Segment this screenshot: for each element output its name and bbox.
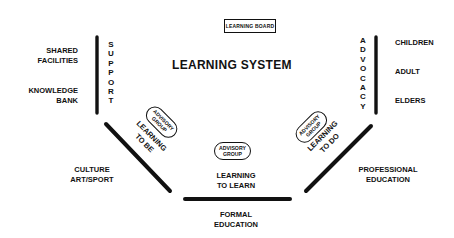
elders-label: ELDERS [395, 96, 425, 106]
children-label: CHILDREN [395, 38, 434, 48]
learning-to-learn-line1: LEARNING [211, 171, 261, 181]
shared-facilities-line2: FACILITIES [20, 56, 78, 66]
education-line: EDUCATION [355, 175, 421, 185]
professional-education-label: PROFESSIONAL EDUCATION [355, 165, 421, 184]
learning-system-diagram: LEARNING BOARD LEARNING SYSTEM SHARED FA… [0, 0, 454, 238]
education-line: EDUCATION [208, 220, 264, 230]
formal-education-label: FORMAL EDUCATION [208, 210, 264, 229]
adult-label: ADULT [395, 67, 420, 77]
knowledge-bank-label: KNOWLEDGE BANK [12, 86, 78, 105]
artsport-line: ART/SPORT [66, 175, 118, 185]
learning-to-learn-line2: TO LEARN [211, 181, 261, 191]
diagram-lines [0, 0, 454, 238]
knowledge-bank-line1: KNOWLEDGE [12, 86, 78, 96]
learning-to-learn-label: LEARNING TO LEARN [211, 171, 261, 190]
knowledge-bank-line2: BANK [12, 96, 78, 106]
culture-line: CULTURE [66, 165, 118, 175]
advisory-line2: GROUP [219, 151, 246, 157]
professional-line: PROFESSIONAL [355, 165, 421, 175]
learning-board-box: LEARNING BOARD [224, 19, 276, 33]
diagram-title: LEARNING SYSTEM [172, 58, 292, 72]
culture-artsport-label: CULTURE ART/SPORT [66, 165, 118, 184]
formal-line: FORMAL [208, 210, 264, 220]
advocacy-label: ADVOCACY [358, 36, 368, 111]
shared-facilities-line1: SHARED [20, 46, 78, 56]
shared-facilities-label: SHARED FACILITIES [20, 46, 78, 65]
support-label: SUPPORT [106, 40, 116, 106]
advisory-group-to-learn: ADVISORY GROUP [214, 142, 251, 160]
